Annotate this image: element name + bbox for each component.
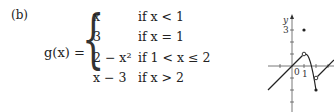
function-graph: y 3 0 1 (0, 0, 334, 112)
x-tick-label: 1 (302, 69, 308, 79)
open-point-1-1 (302, 52, 306, 56)
closed-point-1-3 (302, 28, 305, 31)
open-point-2-neg1 (314, 76, 318, 80)
y-axis-label: y (282, 15, 289, 25)
y-tick-label: 3 (283, 25, 289, 35)
origin-label: 0 (294, 67, 300, 77)
line-segment-x-minus-3 (318, 60, 334, 77)
y-axis-arrow-icon (290, 14, 294, 19)
closed-point-2-neg2 (314, 88, 317, 91)
